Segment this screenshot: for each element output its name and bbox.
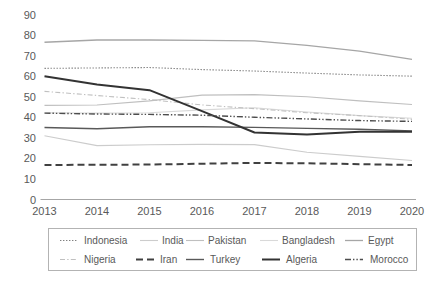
series-group <box>45 40 413 165</box>
y-axis-tick-label: 80 <box>24 29 36 41</box>
legend-item-india[interactable]: India <box>140 235 184 246</box>
series-line-bangladesh <box>45 108 413 118</box>
legend-label: India <box>162 235 184 246</box>
y-axis-tick-label: 40 <box>24 111 36 123</box>
y-axis-tick-label: 90 <box>24 9 36 21</box>
series-line-nigeria <box>45 91 413 119</box>
legend-item-bangladesh[interactable]: Bangladesh <box>260 235 335 246</box>
y-axis-tick-label: 30 <box>24 132 36 144</box>
x-axis-tick-label: 2018 <box>295 205 319 217</box>
y-axis-tick-label: 50 <box>24 91 36 103</box>
series-line-algeria <box>45 76 413 134</box>
y-axis-tick-label: 70 <box>24 50 36 62</box>
y-axis-tick-label: 20 <box>24 152 36 164</box>
legend-label: Turkey <box>210 254 240 265</box>
y-axis-tick-label: 60 <box>24 70 36 82</box>
x-axis-tick-label: 2013 <box>32 205 56 217</box>
legend-item-iran[interactable]: Iran <box>136 254 177 265</box>
legend-label: Iran <box>160 254 177 265</box>
legend-label: Nigeria <box>84 254 116 265</box>
legend-label: Algeria <box>286 254 318 265</box>
legend: IndonesiaIndiaPakistanBangladeshEgyptNig… <box>60 235 409 265</box>
series-line-morocco <box>45 113 413 121</box>
x-axis-tick-label: 2015 <box>137 205 161 217</box>
legend-item-pakistan[interactable]: Pakistan <box>186 235 246 246</box>
legend-item-morocco[interactable]: Morocco <box>345 254 409 265</box>
series-line-pakistan <box>45 95 413 106</box>
legend-label: Egypt <box>368 235 394 246</box>
legend-item-indonesia[interactable]: Indonesia <box>60 235 128 246</box>
x-axis-tick-label: 2014 <box>85 205 109 217</box>
x-axis-tick-label: 2016 <box>190 205 214 217</box>
legend-label: Pakistan <box>208 235 246 246</box>
legend-label: Morocco <box>370 254 409 265</box>
y-axis-tick-label: 10 <box>24 173 36 185</box>
series-line-india <box>45 136 413 161</box>
x-axis-tick-label: 2019 <box>347 205 371 217</box>
legend-item-turkey[interactable]: Turkey <box>186 254 240 265</box>
legend-label: Bangladesh <box>282 235 335 246</box>
legend-label: Indonesia <box>84 235 128 246</box>
legend-item-egypt[interactable]: Egypt <box>345 235 394 246</box>
line-chart: 0102030405060708090201320142015201620172… <box>0 0 434 285</box>
series-line-turkey <box>45 127 413 131</box>
chart-canvas: 0102030405060708090201320142015201620172… <box>0 0 434 285</box>
x-axis-tick-label: 2017 <box>242 205 266 217</box>
y-axis-ticks: 0102030405060708090 <box>24 9 36 206</box>
series-line-iran <box>45 163 413 165</box>
series-line-egypt <box>45 40 413 59</box>
x-axis-tick-label: 2020 <box>400 205 424 217</box>
legend-item-algeria[interactable]: Algeria <box>262 254 318 265</box>
legend-item-nigeria[interactable]: Nigeria <box>60 254 116 265</box>
series-line-indonesia <box>45 68 413 77</box>
x-axis-ticks: 20132014201520162017201820192020 <box>32 205 424 217</box>
